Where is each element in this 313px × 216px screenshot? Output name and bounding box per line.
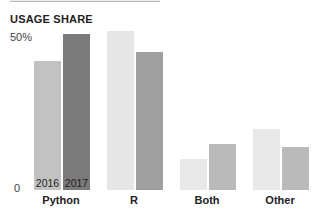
bar-r-2016 bbox=[107, 31, 134, 190]
category-label-other: Other bbox=[240, 194, 313, 206]
bar-other-2016 bbox=[253, 129, 280, 190]
series-label-2017: 2017 bbox=[63, 177, 90, 189]
chart-title: USAGE SHARE bbox=[10, 13, 93, 25]
bar-both-2017 bbox=[209, 144, 236, 190]
bar-python-2016: 2016 bbox=[34, 61, 61, 190]
category-label-python: Python bbox=[21, 194, 101, 206]
category-label-both: Both bbox=[167, 194, 247, 206]
bar-other-2017 bbox=[282, 147, 309, 190]
bar-python-2017: 2017 bbox=[63, 34, 90, 190]
cropped-subtitle: ▬▬▬▬▬▬▬▬▬▬▬▬▬▬▬▬ bbox=[10, 0, 160, 2]
bar-both-2016 bbox=[180, 159, 207, 190]
y-tick-zero: 0 bbox=[14, 182, 20, 194]
bar-r-2017 bbox=[136, 52, 163, 190]
category-label-r: R bbox=[94, 194, 174, 206]
series-label-2016: 2016 bbox=[34, 177, 61, 189]
y-tick-max: 50% bbox=[10, 31, 32, 43]
